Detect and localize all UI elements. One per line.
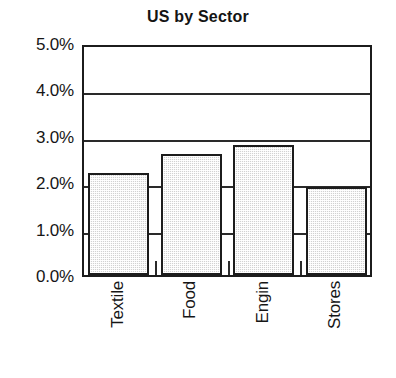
x-axis-ticks [84, 47, 370, 275]
y-axis: 0.0%1.0%2.0%3.0%4.0%5.0% [0, 45, 78, 277]
y-tick-label: 3.0% [36, 128, 74, 148]
x-tick-label: Engin [253, 281, 273, 323]
x-axis: TextileFoodEnginStores [82, 281, 372, 377]
y-tick-label: 4.0% [36, 81, 74, 101]
bar-chart: US by Sector 0.0%1.0%2.0%3.0%4.0%5.0% Te… [0, 0, 396, 378]
x-tick-label: Stores [325, 281, 345, 329]
x-tick-label: Textile [108, 281, 128, 328]
x-tick-label: Food [180, 281, 200, 319]
y-tick-label: 0.0% [36, 267, 74, 287]
x-tick-mark [155, 261, 157, 275]
x-tick-mark [228, 261, 230, 275]
y-tick-label: 1.0% [36, 221, 74, 241]
y-tick-label: 2.0% [36, 174, 74, 194]
y-tick-label: 5.0% [36, 35, 74, 55]
plot-area [82, 45, 372, 277]
x-tick-mark [300, 261, 302, 275]
chart-title: US by Sector [0, 8, 396, 26]
